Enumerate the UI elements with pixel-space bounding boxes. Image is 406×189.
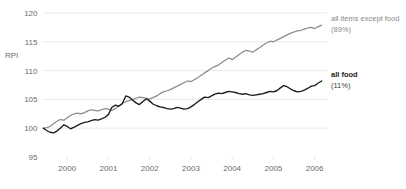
x-axis-tick-labels: 2000200120022003200420052006 xyxy=(58,164,324,173)
x-tick-label: 2005 xyxy=(265,164,283,173)
legend-group: all items except food(89%)all food(11%) xyxy=(331,14,399,90)
x-tickmarks-group xyxy=(67,157,314,160)
legend-label-2: all food xyxy=(331,70,358,79)
x-tick-label: 2002 xyxy=(141,164,159,173)
y-axis-title: RPI xyxy=(5,51,18,60)
rpi-line-chart: 95100105110115120 2000200120022003200420… xyxy=(0,0,406,189)
y-tick-label: 100 xyxy=(24,124,38,133)
series-line-2 xyxy=(43,81,321,133)
x-tick-label: 2006 xyxy=(306,164,324,173)
x-tick-label: 2004 xyxy=(223,164,241,173)
chart-svg: 95100105110115120 2000200120022003200420… xyxy=(0,0,406,189)
x-tick-label: 2003 xyxy=(182,164,200,173)
y-tick-label: 115 xyxy=(25,38,38,47)
y-tick-label: 105 xyxy=(24,95,38,104)
y-tick-label: 120 xyxy=(24,9,38,18)
gridlines-group xyxy=(43,13,328,128)
x-tick-label: 2001 xyxy=(100,164,118,173)
y-axis-tick-labels: 95100105110115120 xyxy=(24,9,38,162)
legend-label-1: all items except food xyxy=(331,14,399,23)
y-tick-label: 110 xyxy=(25,67,38,76)
series-paths-group xyxy=(43,25,321,133)
legend-sublabel-2: (11%) xyxy=(331,81,351,90)
y-tick-label: 95 xyxy=(29,153,38,162)
series-line-1 xyxy=(43,25,321,128)
x-tick-label: 2000 xyxy=(58,164,76,173)
legend-sublabel-1: (89%) xyxy=(331,25,352,34)
